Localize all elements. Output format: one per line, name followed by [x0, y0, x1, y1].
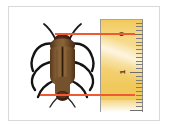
ruler-minor-tick [136, 45, 143, 46]
ruler-major-tick [130, 72, 143, 73]
ruler-major-tick [130, 110, 143, 111]
ruler-minor-tick [136, 80, 143, 81]
ruler-minor-tick [136, 49, 143, 50]
ruler-minor-tick [136, 76, 143, 77]
ruler-minor-tick [136, 102, 143, 103]
ruler-minor-tick [136, 106, 143, 107]
head-reference-line [55, 33, 135, 35]
ruler-minor-tick [136, 23, 143, 24]
ruler-minor-tick [136, 64, 143, 65]
ruler-minor-tick [136, 38, 143, 39]
ruler-minor-tick [136, 87, 143, 88]
ruler-minor-tick [136, 95, 143, 96]
ruler-minor-tick [136, 83, 143, 84]
ruler-minor-tick [136, 42, 143, 43]
ruler-minor-tick [136, 53, 143, 54]
ruler-minor-tick [136, 99, 143, 100]
ruler-minor-tick [136, 26, 143, 27]
ruler-minor-tick [136, 30, 143, 31]
figure-root: 0 1 [0, 0, 169, 130]
ruler-minor-tick [136, 61, 143, 62]
ruler-minor-tick [136, 57, 143, 58]
abdomen-reference-line [40, 94, 135, 96]
illustration-stage: 0 1 [0, 0, 169, 130]
ruler-minor-tick [136, 68, 143, 69]
ruler-top-edge [100, 19, 143, 20]
ruler-minor-tick [136, 91, 143, 92]
ruler-label-1: 1 [119, 70, 127, 74]
